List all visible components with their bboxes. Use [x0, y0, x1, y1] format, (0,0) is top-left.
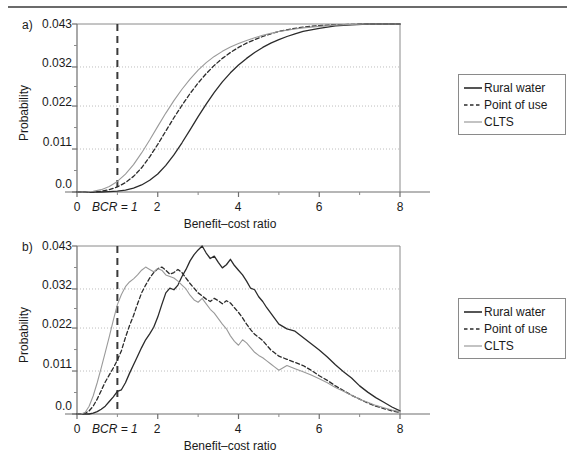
panel-a-legend-label-0: Rural water	[484, 82, 545, 94]
panel-b-legend: Rural waterPoint of useCLTS	[458, 298, 566, 359]
panel-a: a) Probability 0.043 0.032 0.022 0.011 0…	[0, 14, 575, 232]
panel-b-legend-label-2: CLTS	[484, 340, 514, 352]
panel-a-legend-label-2: CLTS	[484, 116, 514, 128]
panel-a-legend: Rural waterPoint of useCLTS	[458, 74, 566, 135]
legend-line-sample-solid-icon	[463, 306, 483, 318]
legend-line-sample-solid-icon	[463, 340, 483, 352]
panel-a-legend-label-1: Point of use	[484, 99, 547, 111]
panel-b: b) Probability 0.043 0.032 0.022 0.011 0…	[0, 236, 575, 461]
panel-b-legend-entry-1[interactable]: Point of use	[463, 320, 559, 337]
panel-b-legend-label-0: Rural water	[484, 306, 545, 318]
top-divider-rule	[8, 6, 567, 8]
legend-line-sample-solid-icon	[463, 116, 483, 128]
panel-b-legend-label-1: Point of use	[484, 323, 547, 335]
legend-line-sample-solid-icon	[463, 82, 483, 94]
panel-b-legend-entry-2[interactable]: CLTS	[463, 337, 559, 354]
panel-a-legend-entry-0[interactable]: Rural water	[463, 79, 559, 96]
legend-line-sample-dashed-icon	[463, 99, 483, 111]
panel-a-legend-entry-2[interactable]: CLTS	[463, 113, 559, 130]
legend-line-sample-dashed-icon	[463, 323, 483, 335]
panel-b-legend-entry-0[interactable]: Rural water	[463, 303, 559, 320]
panel-a-legend-entry-1[interactable]: Point of use	[463, 96, 559, 113]
